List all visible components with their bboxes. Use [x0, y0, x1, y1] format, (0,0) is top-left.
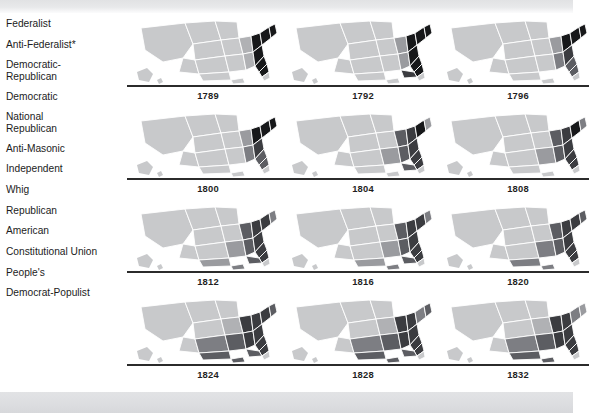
- map-year-label: 1832: [443, 369, 593, 380]
- map-row: 1789: [133, 14, 573, 107]
- timeline-rule: [437, 364, 589, 366]
- top-clipped-band: [0, 0, 573, 13]
- legend-item-democrat-populist: Democrat-Populist: [6, 287, 132, 299]
- map-cell: 1824: [133, 293, 283, 386]
- legend: Federalist Anti-Federalist* Democratic- …: [6, 18, 132, 308]
- map-year-label: 1789: [133, 90, 283, 101]
- us-map-svg: [443, 293, 593, 365]
- us-map: [288, 107, 438, 179]
- map-year-label: 1824: [133, 369, 283, 380]
- map-cell: 1789: [133, 14, 283, 107]
- us-map: [133, 293, 283, 365]
- footer-band: [0, 392, 573, 413]
- map-grid: 1789: [133, 14, 573, 386]
- us-map-svg: [133, 14, 283, 86]
- us-map: [443, 14, 593, 86]
- timeline-rule: [437, 85, 589, 87]
- map-cell: 1796: [443, 14, 593, 107]
- us-map: [443, 107, 593, 179]
- timeline-rule: [282, 85, 444, 87]
- map-year-label: 1792: [288, 90, 438, 101]
- us-map: [288, 14, 438, 86]
- map-year-label: 1800: [133, 183, 283, 194]
- us-map: [133, 14, 283, 86]
- us-map: [288, 200, 438, 272]
- map-cell: 1832: [443, 293, 593, 386]
- map-row: 1812: [133, 200, 573, 293]
- timeline-rule: [437, 271, 589, 273]
- us-map-svg: [133, 107, 283, 179]
- legend-item-whig: Whig: [6, 184, 132, 196]
- us-map-svg: [288, 293, 438, 365]
- timeline-rule: [127, 364, 289, 366]
- map-cell: 1808: [443, 107, 593, 200]
- us-map-svg: [443, 107, 593, 179]
- legend-item-american: American: [6, 225, 132, 237]
- timeline-rule: [282, 271, 444, 273]
- legend-item-republican: Republican: [6, 205, 132, 217]
- legend-item-independent: Independent: [6, 163, 132, 175]
- timeline-rule: [282, 178, 444, 180]
- legend-item-national-republican: National Republican: [6, 111, 132, 135]
- map-cell: 1804: [288, 107, 438, 200]
- map-year-label: 1816: [288, 276, 438, 287]
- legend-item-democratic: Democratic: [6, 91, 132, 103]
- map-cell: 1812: [133, 200, 283, 293]
- us-map: [133, 200, 283, 272]
- map-cell: 1800: [133, 107, 283, 200]
- map-cell: 1828: [288, 293, 438, 386]
- us-map-svg: [443, 14, 593, 86]
- us-map-svg: [443, 200, 593, 272]
- us-map-svg: [133, 200, 283, 272]
- map-year-label: 1808: [443, 183, 593, 194]
- map-year-label: 1820: [443, 276, 593, 287]
- map-year-label: 1812: [133, 276, 283, 287]
- timeline-rule: [282, 364, 444, 366]
- map-cell: 1816: [288, 200, 438, 293]
- us-map-svg: [133, 293, 283, 365]
- map-cell: 1820: [443, 200, 593, 293]
- us-map-svg: [288, 200, 438, 272]
- legend-item-federalist: Federalist: [6, 18, 132, 30]
- map-row: 1800: [133, 107, 573, 200]
- legend-item-constitutional-union: Constitutional Union: [6, 246, 132, 258]
- timeline-rule: [127, 178, 289, 180]
- legend-item-anti-masonic: Anti-Masonic: [6, 143, 132, 155]
- us-map-svg: [288, 14, 438, 86]
- timeline-rule: [127, 271, 289, 273]
- us-map: [443, 293, 593, 365]
- legend-item-democratic-republican: Democratic- Republican: [6, 59, 132, 83]
- map-cell: 1792: [288, 14, 438, 107]
- timeline-rule: [437, 178, 589, 180]
- us-map-svg: [288, 107, 438, 179]
- timeline-rule: [127, 85, 289, 87]
- us-map: [288, 293, 438, 365]
- us-map: [133, 107, 283, 179]
- us-map: [443, 200, 593, 272]
- legend-item-anti-federalist: Anti-Federalist*: [6, 39, 132, 51]
- map-year-label: 1804: [288, 183, 438, 194]
- map-row: 1824: [133, 293, 573, 386]
- map-year-label: 1796: [443, 90, 593, 101]
- map-year-label: 1828: [288, 369, 438, 380]
- legend-item-peoples: People's: [6, 267, 132, 279]
